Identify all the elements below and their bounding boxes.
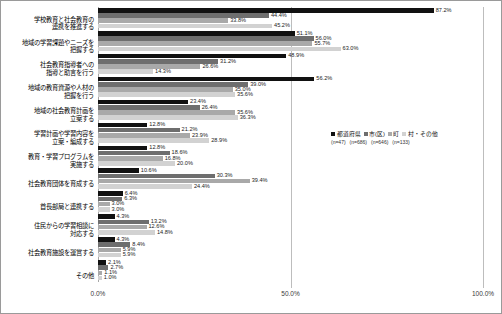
bar-value-label: 14.8% (157, 230, 173, 236)
category-label-line: その他 (1, 272, 94, 280)
category-label-line: 地域の社会教育計画を (1, 107, 94, 115)
category-label: 学習計画や学習内容を立案・編成する (1, 130, 94, 146)
bar (98, 82, 248, 87)
legend-label: 都道府県 (337, 129, 361, 138)
bar-value-label: 36.3% (240, 115, 256, 121)
category-label: 教育・学習プログラムを実施する (1, 153, 94, 169)
category-label-line: 実施する (1, 161, 94, 169)
chart-legend: 都道府県市(区)町村・その他 (n=47)(n=686)(n=646)(n=13… (331, 129, 496, 145)
bar (98, 105, 200, 110)
legend-item[interactable]: 町 (388, 129, 400, 138)
category-label-line: 連携を推進する (1, 23, 94, 31)
category-label-line: 立案・編成する (1, 138, 94, 146)
bar (98, 115, 238, 120)
category-labels: 学校教育と社会教育の連携を推進する地域の学習課題やニーズを把握する社会教育指導者… (1, 7, 98, 282)
category-label-line: 指導と助言を行う (1, 69, 94, 77)
bar (98, 260, 106, 265)
legend-sample-size: (n=133) (392, 139, 409, 145)
bar (98, 179, 250, 184)
legend-swatch (364, 132, 368, 136)
legend-item[interactable]: 市(区) (364, 129, 385, 138)
legend-label: 町 (393, 129, 399, 138)
category-label-line: 教育・学習プログラムを (1, 153, 94, 161)
bar (98, 64, 200, 69)
bar (98, 36, 314, 41)
bar (98, 59, 218, 64)
category-label: 学校教育と社会教育の連携を推進する (1, 16, 94, 32)
legend-item[interactable]: 村・その他 (402, 129, 438, 138)
bar-value-label: 35.6% (237, 92, 253, 98)
gridline (483, 7, 484, 288)
category-label: 住民からの学習相談に対応する (1, 222, 94, 238)
bar-value-label: 6.3% (124, 196, 137, 202)
chart-container: 0.0%50.0%100.0% 学校教育と社会教育の連携を推進する地域の学習課題… (0, 0, 502, 314)
category-label-line: 首長部局と連携する (1, 203, 94, 211)
bar (98, 77, 314, 82)
legend-items: 都道府県市(区)町村・その他 (331, 129, 496, 138)
bar (98, 237, 115, 242)
bar-value-label: 48.9% (288, 53, 304, 59)
category-label: 首長部局と連携する (1, 203, 94, 211)
legend-swatch (388, 132, 392, 136)
bar (98, 214, 115, 219)
bar-value-label: 1.0% (104, 275, 117, 281)
legend-sample-sizes: (n=47)(n=686)(n=646)(n=133) (331, 139, 496, 145)
bar (98, 184, 192, 189)
bar (98, 276, 102, 281)
bar (98, 128, 180, 133)
bar (98, 202, 110, 207)
category-label-line: 対応する (1, 230, 94, 238)
bar (98, 138, 209, 143)
bar (98, 161, 175, 166)
bar (98, 110, 235, 115)
bar (98, 174, 215, 179)
bar-value-label: 31.2% (220, 59, 236, 65)
category-label-line: 社会教育団体を育成する (1, 180, 94, 188)
bar (98, 151, 170, 156)
category-label: 社会教育指導者への指導と助言を行う (1, 61, 94, 77)
category-label: 地域の社会教育計画を立案する (1, 107, 94, 123)
bar-value-label: 39.4% (252, 178, 268, 184)
bar (98, 271, 102, 276)
x-tick-label: 100.0% (472, 290, 494, 297)
category-label-line: 住民からの学習相談に (1, 222, 94, 230)
bar (98, 123, 147, 128)
bar (98, 168, 139, 173)
category-label: 地域の教育資源や人材の把握を行う (1, 84, 94, 100)
bar (98, 92, 235, 97)
bar-value-label: 26.6% (202, 64, 218, 70)
bar-value-label: 3.0% (112, 207, 125, 213)
bar (98, 24, 272, 29)
bar (98, 207, 110, 212)
category-label-line: 学習計画や学習内容を (1, 130, 94, 138)
bar-value-label: 39.0% (250, 82, 266, 88)
category-label-line: 把握を行う (1, 92, 94, 100)
bar (98, 248, 121, 253)
bar (98, 47, 341, 52)
bar-value-label: 28.9% (211, 138, 227, 144)
bar-value-label: 44.4% (271, 13, 287, 19)
legend-label: 市(区) (369, 129, 385, 138)
legend-sample-size: (n=646) (371, 139, 388, 145)
bar (98, 253, 121, 258)
legend-label: 村・その他 (408, 129, 438, 138)
legend-sample-size: (n=686) (350, 139, 367, 145)
bar (98, 220, 149, 225)
bar (98, 69, 153, 74)
x-tick-label: 0.0% (91, 290, 106, 297)
bar-value-label: 5.9% (123, 252, 136, 258)
bar-value-label: 24.4% (194, 184, 210, 190)
bar (98, 156, 163, 161)
bar (98, 225, 147, 230)
bar-value-label: 63.0% (343, 46, 359, 52)
legend-swatch (402, 132, 406, 136)
bar (98, 41, 312, 46)
bar-value-label: 45.2% (274, 23, 290, 29)
category-label: その他 (1, 272, 94, 280)
category-label-line: 社会教育施設を運営する (1, 249, 94, 257)
legend-item[interactable]: 都道府県 (331, 129, 361, 138)
bar (98, 18, 228, 23)
bar (98, 146, 147, 151)
bar-value-label: 87.2% (436, 8, 452, 14)
category-label: 社会教育団体を育成する (1, 180, 94, 188)
